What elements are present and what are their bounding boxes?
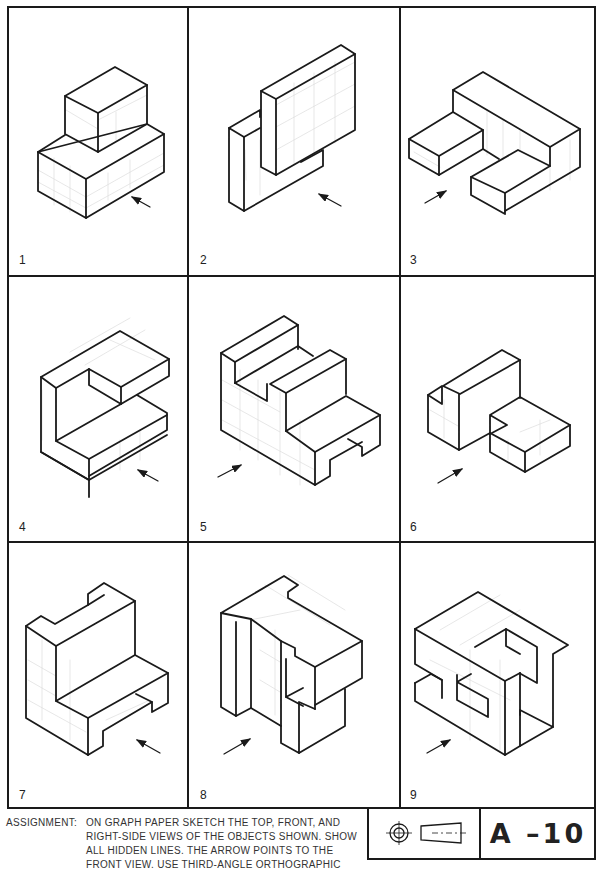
panel-number-3: 3 [410,253,417,267]
panel-number-4: 4 [19,520,26,534]
third-angle-projection-icon [386,821,468,845]
front-view-arrow [425,191,446,203]
front-view-arrow [224,739,250,754]
front-view-arrow [438,469,462,483]
object-6-drawing [428,350,570,472]
panel-number-2: 2 [200,253,207,267]
object-3-drawing [409,72,580,214]
panel-number-6: 6 [410,520,417,534]
panel-number-5: 5 [200,520,207,534]
front-view-arrow [137,740,160,753]
assignment-label: ASSIGNMENT: [6,816,86,830]
front-view-arrow [218,465,241,477]
object-7-drawing [26,583,168,755]
front-view-arrow [132,197,150,207]
front-view-arrow [138,470,158,481]
object-2-drawing [229,45,355,211]
object-1-drawing [38,67,164,218]
front-view-arrow [427,740,450,753]
object-4-drawing [41,318,169,497]
panel-number-8: 8 [200,788,207,802]
sheet-code: A –10 [482,818,594,849]
object-8-drawing [221,575,362,753]
assignment-line: RIGHT-SIDE VIEWS OF THE OBJECTS SHOWN. S… [6,830,357,844]
assignment-line: ALL HIDDEN LINES. THE ARROW POINTS TO TH… [6,844,357,858]
assignment-text: ASSIGNMENT:ON GRAPH PAPER SKETCH THE TOP… [6,816,357,872]
panel-number-7: 7 [19,788,26,802]
object-5-drawing [221,316,380,485]
front-view-arrow [319,194,341,206]
assignment-line: FRONT VIEW. USE THIRD-ANGLE ORTHOGRAPHIC [6,858,357,872]
panel-number-9: 9 [410,788,417,802]
panel-number-1: 1 [19,253,26,267]
assignment-line: ON GRAPH PAPER SKETCH THE TOP, FRONT, AN… [86,817,340,828]
object-9-drawing [415,592,568,755]
